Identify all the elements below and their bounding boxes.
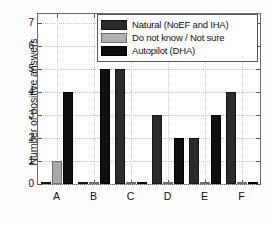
- legend-item: Do not know / Not sure: [101, 32, 253, 44]
- bar-a-series-0: [41, 182, 51, 184]
- legend-label: Natural (NoEF and IHA): [132, 20, 228, 30]
- x-tick-label-a: A: [53, 191, 60, 202]
- legend-swatch-icon: [101, 33, 127, 43]
- y-tick-label: 5: [28, 64, 34, 74]
- y-tick-mark: [38, 184, 42, 185]
- chart-figure: Number of positive answers 01234567ABCDE…: [0, 0, 272, 226]
- y-tick-label: 4: [28, 87, 34, 97]
- legend-label: Do not know / Not sure: [132, 33, 224, 43]
- bar-e-series-1: [200, 182, 210, 184]
- bar-a-series-1: [52, 161, 62, 184]
- bar-f-series-1: [237, 182, 247, 184]
- y-tick-label: 1: [28, 156, 34, 166]
- chart-legend: Natural (NoEF and IHA)Do not know / Not …: [97, 14, 258, 62]
- legend-item: Autopilot (DHA): [101, 45, 253, 57]
- x-tick-label-b: B: [90, 191, 97, 202]
- x-tick-label-c: C: [127, 191, 135, 202]
- y-tick-label: 6: [28, 41, 34, 51]
- bar-e-series-0: [189, 138, 199, 184]
- bar-b-series-2: [100, 69, 110, 184]
- y-tick-label: 0: [28, 179, 34, 189]
- bar-c-series-2: [137, 182, 147, 184]
- bar-b-series-0: [78, 182, 88, 184]
- y-tick-mark: [256, 184, 260, 185]
- bar-e-series-2: [211, 115, 221, 184]
- y-tick-label: 3: [28, 110, 34, 120]
- x-tick-label-d: D: [164, 191, 172, 202]
- bar-a-series-2: [63, 92, 73, 184]
- x-tick-label-e: E: [201, 191, 208, 202]
- x-tick-label-f: F: [238, 191, 244, 202]
- legend-swatch-icon: [101, 46, 127, 56]
- bar-d-series-1: [163, 182, 173, 184]
- bar-c-series-0: [115, 69, 125, 184]
- legend-swatch-icon: [101, 20, 127, 30]
- bar-f-series-0: [226, 92, 236, 184]
- legend-item: Natural (NoEF and IHA): [101, 19, 253, 31]
- y-gridline: [38, 184, 260, 185]
- y-tick-label: 2: [28, 133, 34, 143]
- bar-d-series-0: [152, 115, 162, 184]
- bar-d-series-2: [174, 138, 184, 184]
- legend-label: Autopilot (DHA): [132, 46, 195, 56]
- bar-f-series-2: [248, 182, 258, 184]
- bar-b-series-1: [89, 182, 99, 184]
- y-tick-label: 7: [28, 18, 34, 28]
- bar-c-series-1: [126, 182, 136, 184]
